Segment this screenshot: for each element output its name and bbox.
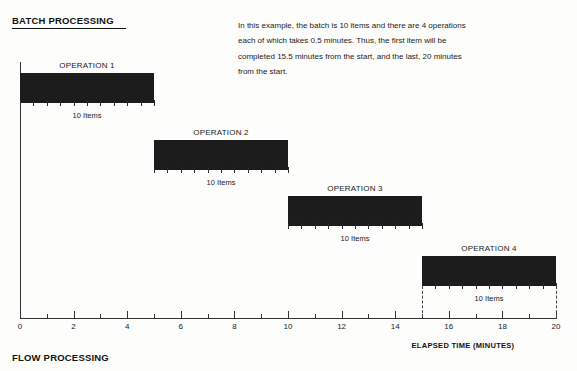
x-axis-tick-major [20, 311, 21, 318]
item-tick [462, 283, 463, 289]
item-tick [409, 223, 410, 229]
x-axis-tick-minor [476, 314, 477, 318]
x-axis-tick-major [234, 311, 235, 318]
x-axis-tick-minor [315, 314, 316, 318]
item-tick [288, 167, 289, 173]
item-tick [422, 223, 423, 229]
x-axis-line [20, 318, 557, 319]
x-axis-tick-label: 14 [391, 322, 400, 331]
item-tick [248, 167, 249, 173]
item-tick [449, 283, 450, 289]
x-axis-title: ELAPSED TIME (MINUTES) [412, 341, 515, 350]
item-tick [167, 167, 168, 173]
x-axis-tick-label: 0 [18, 322, 22, 331]
x-axis-tick-minor [154, 314, 155, 318]
page-title-flow: FLOW PROCESSING [12, 352, 109, 363]
item-tick [489, 283, 490, 289]
item-tick [261, 167, 262, 173]
x-axis-tick-major [288, 311, 289, 318]
item-tick [20, 100, 21, 106]
x-axis-tick-major [74, 311, 75, 318]
item-tick [368, 223, 369, 229]
operation-label: OPERATION 4 [461, 244, 516, 253]
item-tick [382, 223, 383, 229]
drop-line [556, 286, 557, 318]
item-tick [476, 283, 477, 289]
item-tick [208, 167, 209, 173]
operation-label: OPERATION 1 [59, 61, 114, 70]
item-tick [141, 100, 142, 106]
x-axis-tick-major [395, 311, 396, 318]
item-tick [516, 283, 517, 289]
item-tick [154, 100, 155, 106]
x-axis-tick-label: 4 [125, 322, 129, 331]
x-axis-tick-major [342, 311, 343, 318]
item-tick [395, 223, 396, 229]
operation-bar [422, 256, 556, 286]
x-axis-tick-label: 8 [232, 322, 236, 331]
x-axis-tick-minor [47, 314, 48, 318]
operation-label: OPERATION 2 [193, 128, 248, 137]
item-tick [194, 167, 195, 173]
item-tick [181, 167, 182, 173]
x-axis-tick-label: 20 [552, 322, 561, 331]
item-tick [435, 283, 436, 289]
item-tick [234, 167, 235, 173]
item-tick [100, 100, 101, 106]
x-axis-tick-label: 2 [71, 322, 75, 331]
items-count-label: 10 Items [73, 111, 102, 120]
x-axis-tick-minor [529, 314, 530, 318]
items-count-label: 10 Items [475, 294, 504, 303]
item-tick [355, 223, 356, 229]
item-tick [328, 223, 329, 229]
item-tick [47, 100, 48, 106]
item-tick [87, 100, 88, 106]
x-axis-tick-label: 18 [498, 322, 507, 331]
items-count-label: 10 Items [341, 234, 370, 243]
item-tick [60, 100, 61, 106]
item-tick [502, 283, 503, 289]
item-tick [33, 100, 34, 106]
operation-label: OPERATION 3 [327, 184, 382, 193]
item-tick [315, 223, 316, 229]
chart-plot-area: 02468101214161820OPERATION 110 ItemsOPER… [0, 0, 577, 371]
x-axis-tick-major [502, 311, 503, 318]
item-tick [275, 167, 276, 173]
operation-bar [288, 196, 422, 226]
item-tick [221, 167, 222, 173]
items-count-label: 10 Items [207, 178, 236, 187]
drop-line [422, 286, 423, 318]
item-tick [529, 283, 530, 289]
x-axis-tick-label: 12 [337, 322, 346, 331]
item-tick [154, 167, 155, 173]
batch-processing-figure: BATCH PROCESSING In this example, the ba… [0, 0, 577, 371]
item-tick [342, 223, 343, 229]
item-tick [543, 283, 544, 289]
x-axis-tick-minor [368, 314, 369, 318]
x-axis-tick-minor [100, 314, 101, 318]
x-axis-tick-label: 6 [179, 322, 183, 331]
x-axis-tick-minor [208, 314, 209, 318]
x-axis-tick-label: 16 [444, 322, 453, 331]
x-axis-tick-major [449, 311, 450, 318]
item-tick [127, 100, 128, 106]
item-tick [301, 223, 302, 229]
x-axis-tick-major [127, 311, 128, 318]
x-axis-tick-label: 10 [284, 322, 293, 331]
x-axis-tick-major [181, 311, 182, 318]
item-tick [288, 223, 289, 229]
item-tick [74, 100, 75, 106]
operation-bar [20, 73, 154, 103]
operation-bar [154, 140, 288, 170]
item-tick [114, 100, 115, 106]
x-axis-tick-minor [261, 314, 262, 318]
